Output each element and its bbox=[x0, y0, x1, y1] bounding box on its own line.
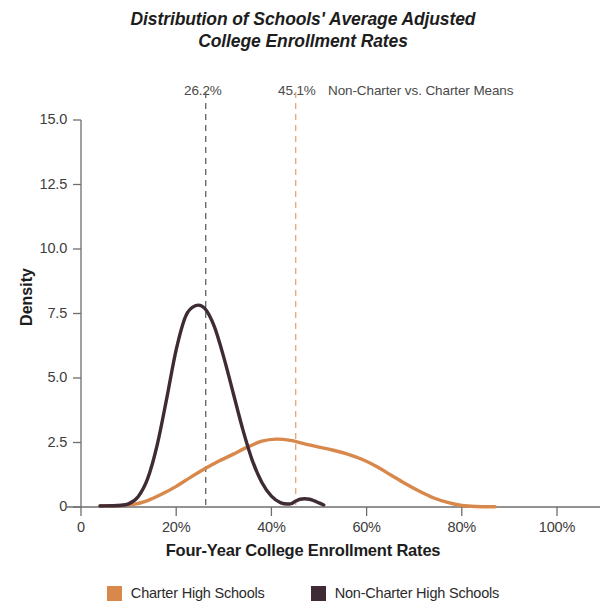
legend-swatch-icon bbox=[107, 586, 122, 601]
density-chart: Distribution of Schools' Average Adjuste… bbox=[0, 0, 606, 613]
legend-swatch-icon bbox=[311, 586, 326, 601]
legend-item[interactable]: Non-Charter High Schools bbox=[311, 585, 499, 601]
density-curve-noncharter bbox=[100, 305, 324, 506]
chart-legend: Charter High SchoolsNon-Charter High Sch… bbox=[0, 585, 606, 601]
plot-area bbox=[0, 0, 606, 613]
density-curve-charter bbox=[100, 439, 495, 507]
legend-item[interactable]: Charter High Schools bbox=[107, 585, 265, 601]
legend-label: Charter High Schools bbox=[131, 585, 265, 601]
legend-label: Non-Charter High Schools bbox=[335, 585, 499, 601]
